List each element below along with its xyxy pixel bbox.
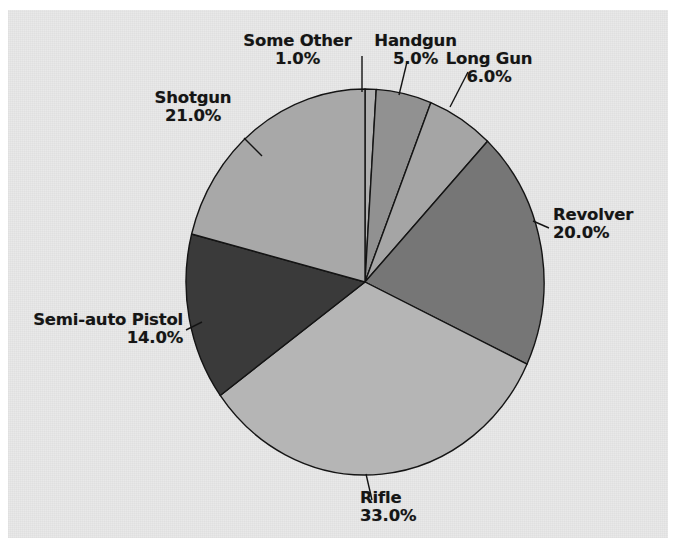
slice-label-some-other-pct: 1.0% <box>230 50 365 68</box>
pie-chart-figure: Some Other 1.0%Handgun 5.0%Long Gun 6.0%… <box>0 0 675 545</box>
pie-svg: Some Other 1.0%Handgun 5.0%Long Gun 6.0%… <box>0 0 675 545</box>
slice-label-long-gun: Long Gun 6.0% <box>441 50 537 87</box>
slice-label-rifle-pct: 33.0% <box>360 507 470 525</box>
slice-label-shotgun: Shotgun 21.0% <box>138 89 248 126</box>
slice-label-long-gun-pct: 6.0% <box>441 68 537 86</box>
slice-label-semi-auto-pistol: Semi-auto Pistol 14.0% <box>20 311 183 348</box>
slice-label-semi-auto-pistol-pct: 14.0% <box>20 329 183 347</box>
slice-label-rifle-name: Rifle <box>360 488 401 507</box>
pie-slices-group: Some Other 1.0%Handgun 5.0%Long Gun 6.0%… <box>186 89 544 475</box>
slice-label-handgun-name: Handgun <box>374 31 456 50</box>
slice-label-shotgun-name: Shotgun <box>155 88 232 107</box>
slice-label-revolver-name: Revolver <box>553 205 633 224</box>
slice-label-semi-auto-pistol-name: Semi-auto Pistol <box>33 310 183 329</box>
slice-label-revolver: Revolver 20.0% <box>553 206 663 243</box>
chart-plot-area: Some Other 1.0%Handgun 5.0%Long Gun 6.0%… <box>0 0 675 545</box>
slice-label-long-gun-name: Long Gun <box>446 49 533 68</box>
slice-label-shotgun-pct: 21.0% <box>138 107 248 125</box>
slice-label-rifle: Rifle 33.0% <box>360 489 470 526</box>
slice-label-some-other: Some Other 1.0% <box>230 32 365 69</box>
slice-label-revolver-pct: 20.0% <box>553 224 663 242</box>
slice-label-some-other-name: Some Other <box>243 31 351 50</box>
